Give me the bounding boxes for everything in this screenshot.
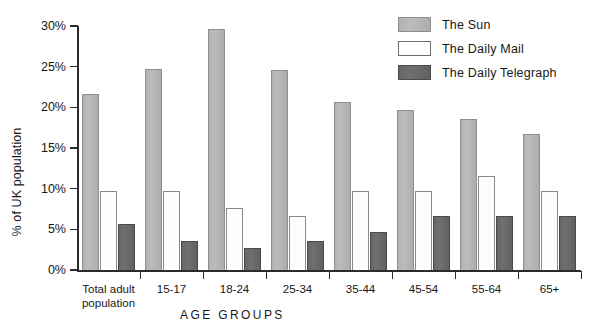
x-tick-label-8: 65+ <box>540 283 560 297</box>
bar-daily-mail-3 <box>226 208 243 270</box>
bar-daily-mail-5 <box>352 191 369 270</box>
y-axis-title: % of UK population <box>10 102 24 262</box>
bar-sun-7 <box>460 119 477 270</box>
bar-sun-2 <box>145 69 162 270</box>
bar-sun-8 <box>523 134 540 270</box>
bar-daily-mail-8 <box>541 191 558 270</box>
x-tick-5 <box>392 271 393 279</box>
x-tick-label-4: 25-34 <box>283 283 312 297</box>
x-tick-label-2: 15-17 <box>157 283 186 297</box>
x-tick-end <box>581 271 582 279</box>
x-tick-3 <box>266 271 267 279</box>
bar-daily-mail-4 <box>289 216 306 270</box>
bar-chart: The Sun The Daily Mail The Daily Telegra… <box>0 0 596 332</box>
bar-daily-telegraph-5 <box>370 232 387 270</box>
bar-daily-telegraph-3 <box>244 248 261 270</box>
bar-daily-mail-2 <box>163 191 180 270</box>
bar-daily-mail-6 <box>415 191 432 270</box>
bar-daily-telegraph-4 <box>307 241 324 270</box>
bar-sun-1 <box>82 94 99 270</box>
bar-sun-5 <box>334 102 351 270</box>
bar-daily-telegraph-6 <box>433 216 450 270</box>
x-tick-7 <box>518 271 519 279</box>
x-tick-label-5: 35-44 <box>346 283 375 297</box>
x-tick-label-3: 18-24 <box>220 283 249 297</box>
x-tick-4 <box>329 271 330 279</box>
bar-daily-telegraph-1 <box>118 224 135 270</box>
x-tick-6 <box>455 271 456 279</box>
x-axis-title: AGE GROUPS <box>180 308 285 322</box>
plot-area: 0%5%10%15%20%25%30% Total adultpopulatio… <box>0 0 596 332</box>
x-tick-label-6: 45-54 <box>409 283 438 297</box>
bar-daily-mail-7 <box>478 176 495 270</box>
x-tick-label-1: Total adultpopulation <box>82 283 135 310</box>
x-tick-label-7: 55-64 <box>472 283 501 297</box>
bar-daily-telegraph-2 <box>181 241 198 270</box>
bar-daily-telegraph-7 <box>496 216 513 270</box>
x-tick-2 <box>203 271 204 279</box>
bar-sun-4 <box>271 70 288 270</box>
bar-sun-3 <box>208 29 225 270</box>
bar-daily-telegraph-8 <box>559 216 576 270</box>
bar-daily-mail-1 <box>100 191 117 270</box>
bar-sun-6 <box>397 110 414 270</box>
x-tick-1 <box>140 271 141 279</box>
bars-layer <box>0 0 596 270</box>
